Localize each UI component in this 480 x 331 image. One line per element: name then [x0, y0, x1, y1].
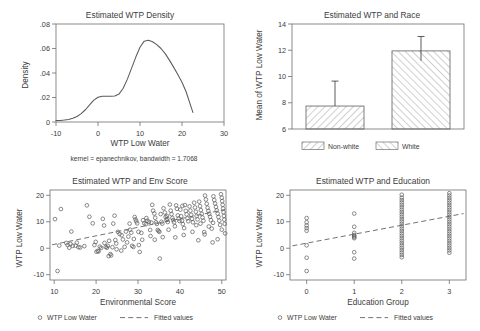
density-ytick-label: .06 — [40, 44, 50, 53]
env-point — [212, 195, 216, 199]
env-ytick-label: 0 — [40, 244, 44, 253]
env-point — [223, 232, 227, 236]
figure-grid: Estimated WTP Density Density 0.02.04.06… — [0, 0, 480, 331]
density-plot-frame — [56, 24, 224, 122]
edu-point — [400, 255, 404, 259]
density-ylabel: Density — [21, 60, 30, 88]
race-legend-swatch — [302, 142, 324, 150]
density-x-axis: -100102030 — [51, 122, 228, 138]
env-point — [113, 214, 117, 218]
race-y-axis: 68101214 — [278, 20, 292, 134]
density-y-axis: 0.02.04.06.08 — [40, 20, 56, 127]
edu-legend-label-fit: Fitted values — [394, 314, 434, 321]
density-ytick-label: .08 — [40, 20, 50, 29]
env-point — [196, 218, 200, 222]
edu-point — [352, 257, 356, 261]
env-point — [168, 203, 172, 207]
env-point — [170, 212, 174, 216]
env-point — [137, 243, 141, 247]
env-point — [111, 245, 115, 249]
env-point — [194, 210, 198, 214]
env-point — [194, 223, 198, 227]
env-point — [70, 230, 74, 234]
env-point — [217, 219, 221, 223]
race-legend-swatch — [376, 142, 398, 150]
edu-ytick-label: -10 — [273, 270, 284, 279]
env-point — [200, 212, 204, 216]
density-xtick-label: 0 — [96, 129, 100, 138]
env-point — [207, 225, 211, 229]
panel-density: Estimated WTP Density Density 0.02.04.06… — [0, 0, 240, 168]
edu-point — [352, 250, 356, 254]
env-point — [191, 230, 195, 234]
env-point — [83, 244, 87, 248]
edu-legend-marker — [278, 316, 282, 320]
env-point — [119, 249, 123, 253]
edu-plot-frame — [290, 190, 466, 280]
edu-ytick-label: 10 — [276, 217, 284, 226]
env-ytick-label: 20 — [36, 191, 44, 200]
env-legend: WTP Low WaterFitted values — [38, 314, 193, 321]
env-point — [173, 236, 177, 240]
edu-xtick-label: 3 — [447, 287, 451, 296]
env-point — [85, 204, 89, 208]
edu-point — [305, 243, 309, 247]
env-xtick-label: 40 — [176, 287, 184, 296]
env-point — [101, 217, 105, 221]
edu-scatter-points — [305, 191, 451, 273]
env-point — [182, 226, 186, 230]
env-point — [153, 238, 157, 242]
edu-legend: WTP Low WaterFitted values — [278, 314, 433, 321]
env-point — [127, 235, 131, 239]
env-scatter-points — [53, 192, 227, 272]
env-point — [197, 200, 201, 204]
env-x-axis: 1020304050 — [50, 280, 226, 296]
edu-point — [448, 251, 452, 255]
edu-point — [305, 229, 309, 233]
env-point — [181, 222, 185, 226]
env-xtick-label: 10 — [50, 287, 58, 296]
race-ylabel: Mean of WTP Low Water — [255, 29, 264, 120]
env-point — [140, 238, 144, 242]
env-point — [115, 247, 119, 251]
env-point — [216, 237, 220, 241]
env-point — [220, 228, 224, 232]
edu-xtick-label: 2 — [400, 287, 404, 296]
env-point — [121, 238, 125, 242]
env-point — [173, 224, 177, 228]
env-point — [199, 208, 203, 212]
edu-ylabel: WTP Low Water — [255, 208, 264, 267]
env-point — [222, 214, 226, 218]
env-point — [161, 235, 165, 239]
env-point — [222, 210, 226, 214]
env-legend-label-points: WTP Low Water — [47, 314, 97, 321]
env-fit-line — [52, 210, 225, 245]
env-point — [53, 217, 57, 221]
env-point — [192, 201, 196, 205]
edu-point — [305, 256, 309, 260]
env-legend-label-fit: Fitted values — [154, 314, 194, 321]
env-point — [114, 242, 118, 246]
edu-xtick-label: 1 — [352, 287, 356, 296]
env-point — [59, 207, 63, 211]
env-point — [103, 241, 107, 245]
env-point — [91, 222, 95, 226]
panel-edu: Estimated WTP and Education WTP Low Wate… — [240, 168, 480, 331]
edu-title: Estimated WTP and Education — [316, 176, 430, 186]
env-xlabel: Environmental Score — [100, 298, 176, 307]
env-point — [57, 244, 61, 248]
race-bar — [306, 106, 364, 129]
env-point — [203, 233, 207, 237]
edu-legend-label-points: WTP Low Water — [287, 314, 337, 321]
env-point — [94, 240, 98, 244]
race-chart: Estimated WTP and Race Mean of WTP Low W… — [240, 0, 480, 168]
env-point — [162, 206, 166, 210]
env-point — [196, 238, 200, 242]
env-point — [125, 241, 129, 245]
density-xtick-label: 10 — [136, 129, 144, 138]
env-point — [102, 224, 106, 228]
race-title: Estimated WTP and Race — [324, 10, 421, 20]
density-chart: Estimated WTP Density Density 0.02.04.06… — [0, 0, 240, 168]
env-point — [211, 221, 215, 225]
density-ytick-label: 0 — [46, 118, 50, 127]
